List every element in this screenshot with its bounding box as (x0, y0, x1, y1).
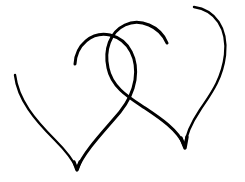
right-heart-tip (181, 137, 187, 148)
right-heart-right-side (185, 7, 225, 146)
left-heart-left-side (15, 75, 77, 169)
interlocking-hearts-drawing: Black line drawing of two interlocking h… (0, 0, 245, 182)
left-heart (15, 34, 136, 170)
right-heart (107, 7, 226, 148)
left-heart-right-side (75, 34, 136, 169)
hearts-svg (0, 0, 245, 182)
right-heart-left-side (107, 22, 184, 145)
